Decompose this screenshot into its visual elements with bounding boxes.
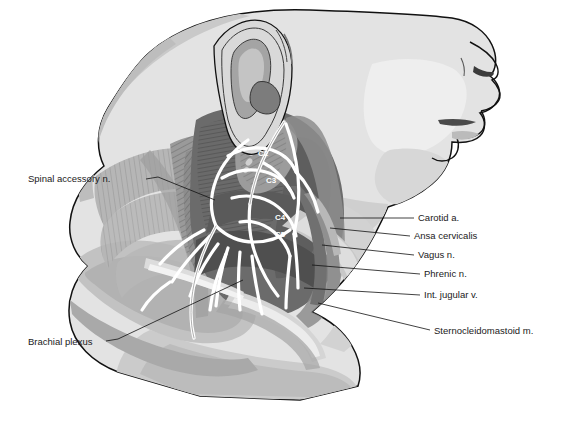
label-brachial-plexus: Brachial plexus	[28, 336, 93, 347]
anatomical-illustration: C2 C3 C4 C5 Spinal accessory n. Brachial…	[0, 0, 563, 424]
root-label-c4: C4	[275, 213, 286, 222]
label-phrenic-n: Phrenic n.	[424, 268, 467, 279]
label-spinal-accessory-n: Spinal accessory n.	[28, 173, 110, 184]
root-label-c5: C5	[275, 230, 286, 239]
label-carotid-a: Carotid a.	[418, 212, 459, 223]
root-label-c2: C2	[258, 149, 269, 158]
label-vagus-n: Vagus n.	[418, 249, 455, 260]
label-ansa-cervicalis: Ansa cervicalis	[414, 230, 478, 241]
label-sternocleidomastoid-m: Sternocleidomastoid m.	[434, 325, 533, 336]
figure-canvas: C2 C3 C4 C5 Spinal accessory n. Brachial…	[0, 0, 563, 424]
label-int-jugular-v: Int. jugular v.	[424, 289, 478, 300]
supraclavicular-n-2	[239, 252, 241, 310]
root-label-c3: C3	[266, 176, 277, 185]
